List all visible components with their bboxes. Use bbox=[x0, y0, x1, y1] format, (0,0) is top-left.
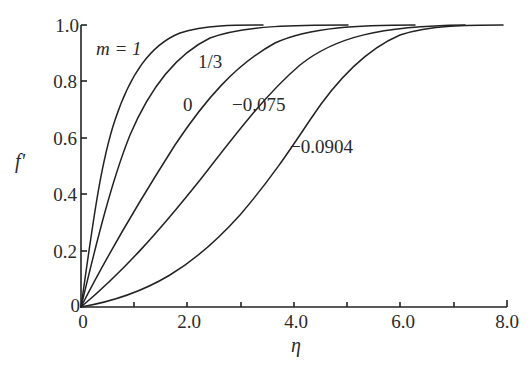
y-tick-0.8: 0.8 bbox=[53, 71, 77, 92]
y-tick-labels: 1.0 0.8 0.6 0.4 0.2 0 bbox=[53, 15, 80, 316]
x-tick-4.0: 4.0 bbox=[284, 311, 308, 332]
label-m-1-3: 1/3 bbox=[198, 51, 222, 72]
label-m-neg-0.0904: −0.0904 bbox=[290, 136, 353, 157]
chart: 1.0 0.8 0.6 0.4 0.2 0 0 2.0 4.0 6.0 8.0 … bbox=[0, 0, 531, 374]
label-m-0: 0 bbox=[183, 94, 193, 115]
y-tick-1.0: 1.0 bbox=[55, 15, 79, 36]
y-tick-0.6: 0.6 bbox=[53, 128, 77, 149]
curve-m-0 bbox=[81, 25, 415, 307]
x-tick-labels: 0 2.0 4.0 6.0 8.0 bbox=[78, 311, 519, 332]
axes bbox=[81, 25, 507, 307]
x-tick-8.0: 8.0 bbox=[495, 311, 519, 332]
y-tick-0.4: 0.4 bbox=[53, 184, 77, 205]
x-axis-title: η bbox=[291, 334, 301, 357]
label-m-1: m = 1 bbox=[96, 38, 142, 59]
x-tick-2.0: 2.0 bbox=[177, 311, 201, 332]
label-m-neg-0.075: −0.075 bbox=[232, 94, 285, 115]
label-m-1-text: m = 1 bbox=[96, 38, 142, 59]
x-tick-0: 0 bbox=[78, 311, 88, 332]
y-tick-0.2: 0.2 bbox=[53, 241, 77, 262]
y-axis-title: f' bbox=[15, 150, 26, 173]
curves bbox=[81, 25, 503, 307]
curve-m-neg-0.0904 bbox=[81, 25, 503, 307]
x-tick-6.0: 6.0 bbox=[391, 311, 415, 332]
curve-m-neg-0.075 bbox=[81, 25, 465, 307]
curve-labels: m = 1 1/3 0 −0.075 −0.0904 bbox=[96, 38, 353, 157]
